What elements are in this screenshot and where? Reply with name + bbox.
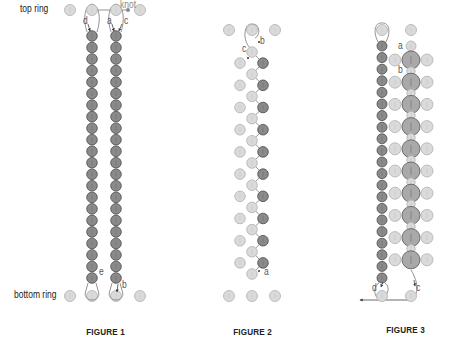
fig3-letter-b: b [398,64,403,75]
figure-2-caption: FIGURE 2 [233,327,272,337]
fig3-letter-c: c [416,282,420,293]
figure-3-diagram [360,23,433,302]
fig1-letter-c: c [124,15,128,26]
top-ring-label: top ring [20,3,48,14]
figure-1-diagram [65,4,146,302]
fig3-letter-d: d [372,282,377,293]
fig2-letter-a: a [264,266,269,277]
fig2-letter-b: b [260,35,265,46]
fig2-letter-c: c [242,43,246,54]
fig1-letter-a: a [107,15,112,26]
fig1-letter-b: b [122,279,127,290]
figure-2-diagram [224,24,281,302]
fig1-letter-e: e [99,266,104,277]
figure-1-caption: FIGURE 1 [86,327,125,337]
beading-diagram-canvas [0,0,451,347]
fig1-letter-d: d [83,15,88,26]
fig3-letter-a: a [398,40,403,51]
knot-label: knot [120,0,136,10]
bottom-ring-label: bottom ring [14,289,57,300]
figure-3-caption: FIGURE 3 [386,325,425,335]
